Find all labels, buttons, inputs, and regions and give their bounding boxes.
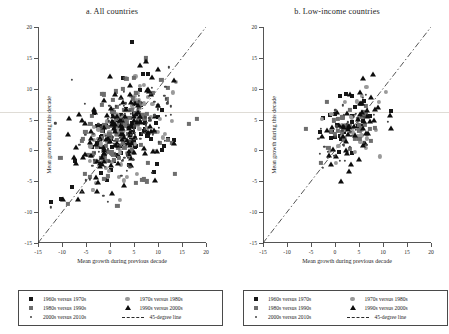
- scatter-point: [348, 161, 354, 166]
- scatter-point: [151, 133, 153, 135]
- scatter-point: [115, 160, 121, 165]
- scatter-point: [133, 111, 139, 116]
- scatter-point: [100, 103, 104, 107]
- scatter-point: [346, 168, 352, 173]
- scatter-point: [329, 136, 333, 140]
- scatter-point: [132, 76, 136, 80]
- y-tick-label: -15: [25, 240, 32, 246]
- legend-glyph: [255, 316, 257, 318]
- scatter-point: [102, 195, 104, 197]
- scatter-point: [70, 79, 72, 81]
- y-tick-label: -10: [250, 209, 257, 215]
- scatter-point: [76, 111, 82, 116]
- legend-item[interactable]: 1990s versus 2000s: [121, 305, 218, 311]
- x-tick-label: 10: [155, 249, 161, 255]
- x-tick: [158, 243, 159, 247]
- scatter-point: [373, 114, 375, 116]
- scatter-point: [111, 98, 115, 102]
- scatter-point: [100, 129, 104, 133]
- scatter-point: [357, 89, 363, 94]
- scatter-point: [141, 145, 147, 150]
- legend-item[interactable]: 2000s versus 2010s: [249, 314, 346, 320]
- scatter-point: [108, 163, 114, 168]
- legend-marker-dash-dot-line-icon: [346, 317, 370, 318]
- scatter-point: [167, 101, 169, 103]
- scatter-point: [49, 200, 53, 204]
- legend-marker-dot-small-icon: [24, 316, 38, 318]
- legend-glyph: [254, 306, 258, 310]
- scatter-point: [132, 159, 134, 161]
- scatter-point: [149, 75, 155, 80]
- y-axis-title-b: Mean growth during this decade: [271, 96, 277, 174]
- scatter-point: [154, 149, 160, 154]
- x-tick-label: -10: [283, 249, 290, 255]
- scatter-point: [124, 77, 128, 81]
- legend-item[interactable]: 1970s versus 1980s: [121, 296, 218, 302]
- legend-glyph: [254, 297, 258, 301]
- scatter-point: [360, 75, 366, 80]
- y-tick-label: 20: [26, 24, 32, 30]
- legend-item[interactable]: 45-degree line: [346, 314, 443, 320]
- scatter-point: [121, 183, 127, 188]
- scatter-point: [130, 40, 134, 44]
- scatter-point: [122, 159, 124, 161]
- y-axis-title-a: Mean growth during this decade: [46, 96, 52, 174]
- x-tick-label: 0: [109, 249, 112, 255]
- x-tick: [359, 243, 360, 247]
- scatter-point: [107, 200, 109, 202]
- legend-marker-square-mid-icon: [249, 306, 263, 310]
- scatter-point: [83, 171, 87, 175]
- scatter-point: [387, 112, 393, 117]
- scatter-point: [141, 72, 145, 76]
- legend-item[interactable]: 45-degree line: [121, 314, 218, 320]
- scatter-point: [359, 101, 365, 106]
- scatter-point: [371, 118, 377, 123]
- x-tick: [206, 243, 207, 247]
- scatter-point: [339, 160, 341, 162]
- x-tick: [110, 243, 111, 247]
- scatter-point: [151, 87, 153, 89]
- scatter-point: [93, 142, 99, 147]
- scatter-point: [125, 170, 127, 172]
- scatter-point: [361, 118, 367, 123]
- scatter-point: [353, 105, 357, 109]
- legend-item[interactable]: 1960s versus 1970s: [249, 296, 346, 302]
- legend-marker-triangle-dark-icon: [121, 305, 135, 310]
- scatter-point: [158, 127, 160, 129]
- scatter-point: [145, 179, 149, 183]
- scatter-point: [141, 132, 143, 134]
- scatter-point: [58, 156, 62, 160]
- legend-item[interactable]: 1970s versus 1980s: [346, 296, 443, 302]
- scatter-point: [115, 204, 119, 208]
- scatter-point: [322, 167, 324, 169]
- legend-item[interactable]: 1990s versus 2000s: [346, 305, 443, 311]
- legend-item[interactable]: 1980s versus 1990s: [249, 305, 346, 311]
- scatter-point: [127, 142, 133, 147]
- scatter-point: [146, 161, 150, 165]
- legend-marker-square-dark-icon: [249, 297, 263, 301]
- legend-item[interactable]: 2000s versus 2010s: [24, 314, 121, 320]
- scatter-point: [73, 160, 79, 165]
- scatter-point: [91, 107, 97, 112]
- y-tick-label: 5: [254, 117, 257, 123]
- legend-item[interactable]: 1960s versus 1970s: [24, 296, 121, 302]
- scatter-point: [79, 139, 83, 143]
- scatter-point: [370, 71, 376, 76]
- scatter-point: [133, 180, 137, 184]
- scatter-points-b: [263, 27, 431, 243]
- x-tick-label: 20: [428, 249, 434, 255]
- legend-label: 1970s versus 1980s: [140, 296, 183, 302]
- legend-label: 45-degree line: [375, 314, 407, 320]
- panel-a-title: a. All countries: [0, 7, 224, 16]
- scatter-point: [75, 197, 81, 202]
- legend-dash-dot-line-icon: [347, 317, 369, 318]
- scatter-point: [78, 144, 80, 146]
- x-tick: [383, 243, 384, 247]
- scatter-point: [352, 133, 358, 138]
- x-tick: [86, 243, 87, 247]
- legend-item[interactable]: 1980s versus 1990s: [24, 305, 121, 311]
- scatter-point: [149, 119, 151, 121]
- scatter-point: [66, 116, 72, 121]
- x-tick-label: 15: [179, 249, 185, 255]
- scatter-point: [187, 122, 191, 126]
